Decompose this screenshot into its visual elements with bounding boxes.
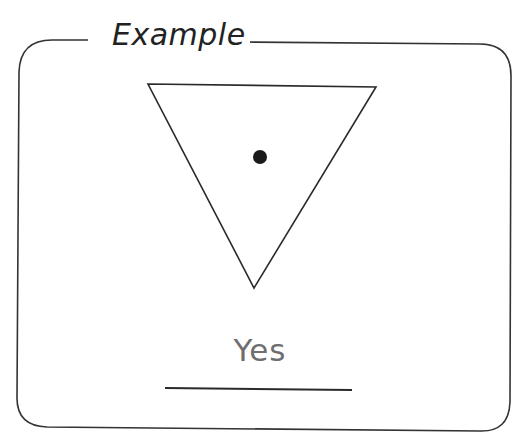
answer-text: Yes [190,330,330,370]
dot-marker [253,150,267,164]
inverted-triangle-shape [148,84,376,288]
card-title: Example [108,16,250,54]
answer-line [165,388,352,390]
example-card-frame [0,0,525,436]
card-border [17,40,511,431]
